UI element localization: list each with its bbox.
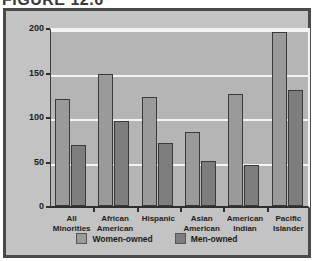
bar: [114, 121, 129, 206]
legend-label: Women-owned: [92, 234, 152, 244]
bar: [272, 32, 287, 206]
bar: [158, 143, 173, 206]
x-tick-mark: [267, 208, 269, 212]
bar: [288, 90, 303, 206]
legend-swatch-icon: [76, 233, 87, 244]
bar: [142, 97, 157, 206]
y-tick-label: 200: [14, 23, 44, 33]
y-tick-label: 150: [14, 68, 44, 78]
bar: [185, 132, 200, 206]
legend-entry[interactable]: Men-owned: [175, 233, 238, 244]
x-tick-mark: [180, 208, 182, 212]
bar: [228, 94, 243, 206]
figure-card: PERCENT GROWTH 050100150200 All Minoriti…: [3, 8, 311, 258]
y-tick-label: 0: [14, 201, 44, 211]
x-tick-mark: [93, 208, 95, 212]
y-tick-label: 100: [14, 112, 44, 122]
bar: [71, 145, 86, 206]
plot-area: [50, 28, 310, 208]
bar-group: [94, 30, 137, 206]
bar: [201, 161, 216, 206]
figure-container: FIGURE 12.6 PERCENT GROWTH 050100150200 …: [0, 0, 314, 261]
x-category-label: Pacific Islander: [261, 214, 314, 234]
y-tick-label: 50: [14, 157, 44, 167]
x-tick-mark: [137, 208, 139, 212]
bar-group: [224, 30, 267, 206]
bar: [98, 74, 113, 206]
x-tick-mark: [223, 208, 225, 212]
legend-label: Men-owned: [191, 234, 238, 244]
bar: [55, 99, 70, 206]
bar-group: [138, 30, 181, 206]
legend-swatch-icon: [175, 233, 186, 244]
bar-group: [268, 30, 311, 206]
bar: [244, 165, 259, 206]
chart-legend: Women-ownedMen-owned: [6, 233, 308, 244]
bar-group: [51, 30, 94, 206]
bar-group: [181, 30, 224, 206]
legend-entry[interactable]: Women-owned: [76, 233, 152, 244]
